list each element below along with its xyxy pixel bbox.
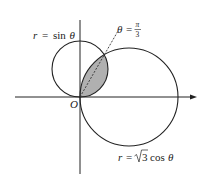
label-cos-curve: r = 3 cos θ xyxy=(118,150,174,163)
svg-text:3: 3 xyxy=(142,151,148,163)
label-ray: θ = π 3 xyxy=(117,20,141,39)
svg-text:=: = xyxy=(126,23,132,35)
origin-label: O xyxy=(70,98,78,110)
svg-text:=: = xyxy=(126,151,132,163)
svg-text:θ: θ xyxy=(168,151,174,163)
svg-text:π: π xyxy=(136,20,140,29)
svg-text:θ: θ xyxy=(117,23,123,35)
label-sin-curve: r = sin θ xyxy=(33,29,76,41)
svg-text:3: 3 xyxy=(136,30,140,39)
x-axis-arrow-icon xyxy=(190,95,197,100)
svg-text:cos: cos xyxy=(150,151,165,163)
svg-text:r: r xyxy=(118,151,123,163)
polar-diagram: r = sin θ θ = π 3 O r = 3 cos θ xyxy=(0,0,209,181)
